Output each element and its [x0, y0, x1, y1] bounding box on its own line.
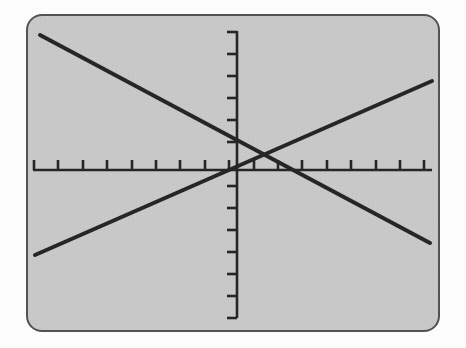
screenshot-stage: Decreasing line Increasing line Graph of…	[0, 0, 466, 348]
y-axis-ticks	[227, 32, 237, 318]
descending-line	[40, 35, 430, 243]
y-axis	[227, 31, 237, 318]
graph-plot	[0, 0, 466, 348]
